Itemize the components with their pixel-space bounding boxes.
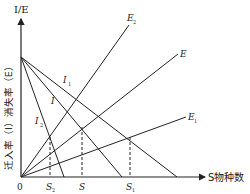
label-e: E [179, 49, 187, 59]
y-axis-side-label: 迁入率（I）消失率（E） [3, 61, 14, 170]
svg-text:1: 1 [194, 118, 197, 124]
diagram-canvas: I/E 迁入率（I）消失率（E） S物种数 0 I 1 I I 2 E 2 E … [0, 0, 250, 194]
extinction-line-e [21, 54, 178, 177]
svg-text:2: 2 [133, 19, 136, 25]
svg-text:I: I [50, 96, 55, 106]
label-e2: E 2 [126, 13, 136, 25]
svg-text:I: I [34, 116, 39, 126]
label-i: I [50, 96, 55, 106]
x-axis-label: S物种数 [208, 171, 244, 183]
label-s: S [79, 182, 85, 192]
label-e1: E 1 [187, 112, 197, 124]
svg-text:I: I [62, 75, 67, 85]
label-i1: I 1 [62, 75, 71, 87]
svg-text:E: E [179, 49, 187, 59]
svg-text:1: 1 [68, 81, 71, 87]
label-s2: S 2 [46, 182, 55, 193]
y-axis-label: I/E [14, 4, 29, 15]
origin-label: 0 [17, 182, 23, 192]
svg-text:2: 2 [52, 187, 55, 193]
svg-text:2: 2 [40, 122, 43, 128]
svg-text:S: S [79, 182, 85, 192]
immigration-line-i2 [21, 57, 64, 177]
label-i2: I 2 [34, 116, 43, 128]
label-s1: S 1 [126, 182, 135, 193]
svg-text:1: 1 [132, 187, 135, 193]
